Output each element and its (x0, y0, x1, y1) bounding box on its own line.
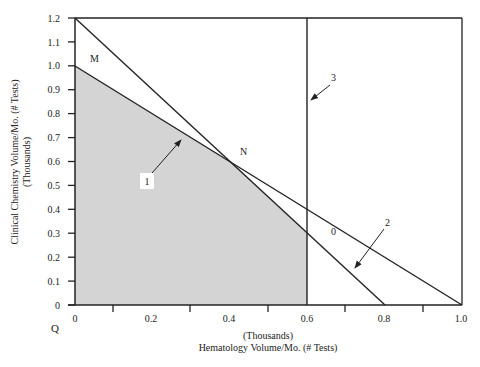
x-tick-labels: 0 0.2 0.4 0.6 0.8 1.0 (73, 313, 468, 324)
label-m: M (90, 53, 99, 64)
svg-text:0.3: 0.3 (48, 228, 61, 239)
y-axis-title: Clinical Chemistry Volume/Mo. (# Tests) (9, 79, 21, 244)
svg-text:0.8: 0.8 (48, 108, 61, 119)
label-n: N (240, 146, 247, 157)
svg-text:1.1: 1.1 (48, 37, 61, 48)
x-axis-units: (Thousands) (243, 330, 293, 342)
y-axis-units: (Thousands) (21, 137, 33, 187)
label-1: 1 (145, 176, 150, 187)
svg-text:0.6: 0.6 (48, 156, 61, 167)
svg-text:1.2: 1.2 (48, 13, 61, 24)
svg-text:0.1: 0.1 (48, 276, 61, 287)
svg-text:0.2: 0.2 (48, 252, 61, 263)
svg-text:0.4: 0.4 (223, 313, 236, 324)
y-ticks (68, 18, 75, 305)
svg-text:0.4: 0.4 (48, 204, 61, 215)
svg-text:0.8: 0.8 (378, 313, 391, 324)
label-zero-region: 0 (331, 226, 336, 237)
svg-text:0.7: 0.7 (48, 132, 61, 143)
y-tick-labels: 0 0.1 0.2 0.3 0.4 0.5 0.6 0.7 0.8 0.9 1.… (48, 13, 61, 311)
svg-text:0: 0 (55, 300, 60, 311)
svg-text:0.9: 0.9 (48, 84, 61, 95)
svg-text:1.0: 1.0 (48, 60, 61, 71)
x-axis-title: Hematology Volume/Mo. (# Tests) (199, 342, 338, 354)
label-2: 2 (385, 217, 390, 228)
label-3: 3 (331, 72, 336, 83)
origin-label: Q (51, 322, 59, 334)
x-ticks (113, 305, 423, 312)
svg-text:0.6: 0.6 (301, 313, 314, 324)
arrow-3 (311, 85, 330, 100)
svg-text:0: 0 (73, 313, 78, 324)
svg-text:0.2: 0.2 (145, 313, 158, 324)
chart: 0 0.1 0.2 0.3 0.4 0.5 0.6 0.7 0.8 0.9 1.… (0, 0, 480, 367)
arrow-2 (355, 229, 384, 268)
shaded-region (75, 66, 307, 305)
svg-text:1.0: 1.0 (455, 313, 468, 324)
svg-text:0.5: 0.5 (48, 180, 61, 191)
